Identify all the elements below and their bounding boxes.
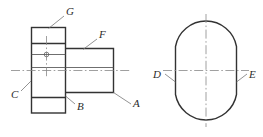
label-c: C [11, 88, 19, 100]
leader-line-b [66, 96, 76, 104]
label-d: D [152, 68, 161, 80]
leader-line-a [114, 93, 132, 105]
leader-line-d [165, 74, 176, 82]
label-b: B [77, 100, 84, 112]
label-a: A [132, 97, 140, 109]
leader-line-e [237, 74, 248, 82]
front-elevation-view: G F C B A [11, 5, 140, 113]
label-g: G [66, 5, 74, 17]
leader-line-g [49, 16, 65, 29]
label-f: F [98, 28, 106, 40]
engineering-drawing-canvas: G F C B A D [0, 0, 263, 137]
label-e: E [248, 68, 256, 80]
drawing-svg: G F C B A D [0, 0, 263, 137]
side-end-view: D E [152, 14, 256, 127]
leader-line-c [21, 81, 31, 91]
